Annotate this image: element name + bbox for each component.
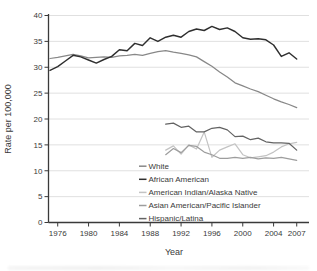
chart-figure: 0510152025303540197619801984198819921996…	[0, 0, 317, 271]
line-chart: 0510152025303540197619801984198819921996…	[0, 0, 317, 271]
legend-label-african-american: African American	[149, 175, 209, 184]
x-tick-label-2004: 2004	[265, 229, 283, 238]
y-tick-label-20: 20	[34, 115, 43, 124]
chart-layer: 0510152025303540197619801984198819921996…	[34, 11, 309, 237]
y-tick-label-10: 10	[34, 167, 43, 176]
y-axis-title: Rate per 100,000	[3, 84, 13, 154]
x-tick-label-1992: 1992	[172, 229, 190, 238]
legend-label-american-indian-alaska-native: American Indian/Alaska Native	[149, 188, 258, 197]
x-tick-label-2007: 2007	[288, 229, 306, 238]
legend-label-hispanic-latina: Hispanic/Latina	[149, 214, 204, 223]
legend-label-asian-american-pacific-islander: Asian American/Pacific Islander	[149, 201, 261, 210]
y-tick-label-15: 15	[34, 141, 43, 150]
y-tick-label-30: 30	[34, 63, 43, 72]
series-line-asian-american-pacific-islander	[166, 145, 297, 160]
series-line-african-american	[50, 26, 297, 70]
y-tick-label-35: 35	[34, 37, 43, 46]
x-tick-label-1976: 1976	[49, 229, 67, 238]
y-tick-label-0: 0	[38, 218, 43, 227]
y-tick-label-25: 25	[34, 89, 43, 98]
x-tick-label-2000: 2000	[234, 229, 252, 238]
x-tick-label-1988: 1988	[141, 229, 159, 238]
legend-label-white: White	[149, 162, 170, 171]
x-tick-label-1984: 1984	[110, 229, 128, 238]
y-tick-label-5: 5	[38, 192, 43, 201]
cropped-caption-artifact	[8, 266, 309, 270]
y-tick-label-40: 40	[34, 11, 43, 20]
x-tick-label-1996: 1996	[203, 229, 221, 238]
x-axis-title: Year	[165, 247, 183, 257]
series-line-hispanic-latina	[166, 123, 297, 150]
x-tick-label-1980: 1980	[80, 229, 98, 238]
